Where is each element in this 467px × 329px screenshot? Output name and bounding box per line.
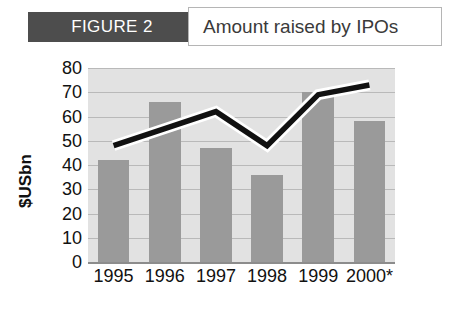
chart-container: $USbn 01020304050607080 1995199619971998… [0,56,467,329]
y-axis-ticks: 01020304050607080 [38,68,86,262]
y-axis-tick-label: 40 [62,156,82,174]
y-axis-tick-label: 60 [62,108,82,126]
y-axis-tick-label: 20 [62,205,82,223]
figure-number-tag: FIGURE 2 [28,12,196,42]
x-axis-tick-label: 1998 [247,266,287,287]
y-axis-tick-label: 10 [62,229,82,247]
y-axis-tick-label: 30 [62,180,82,198]
x-axis-ticks: 199519961997199819992000* [88,266,395,296]
page-title: Amount raised by IPOs [203,16,398,38]
x-axis-line [88,262,395,264]
y-axis-label: $USbn [16,184,36,208]
x-axis-tick-label: 1999 [298,266,338,287]
y-axis-tick-label: 70 [62,83,82,101]
x-axis-tick-label: 1997 [196,266,236,287]
x-axis-tick-label: 1996 [145,266,185,287]
x-axis-tick-label: 2000* [346,266,393,287]
plot-area [88,68,395,262]
y-axis-tick-label: 80 [62,59,82,77]
x-axis-tick-label: 1995 [94,266,134,287]
line-series [88,68,395,262]
y-axis-tick-label: 50 [62,132,82,150]
figure-title-box: Amount raised by IPOs [188,7,442,46]
figure-header: FIGURE 2 Amount raised by IPOs [0,0,467,56]
y-axis-tick-label: 0 [72,253,82,271]
